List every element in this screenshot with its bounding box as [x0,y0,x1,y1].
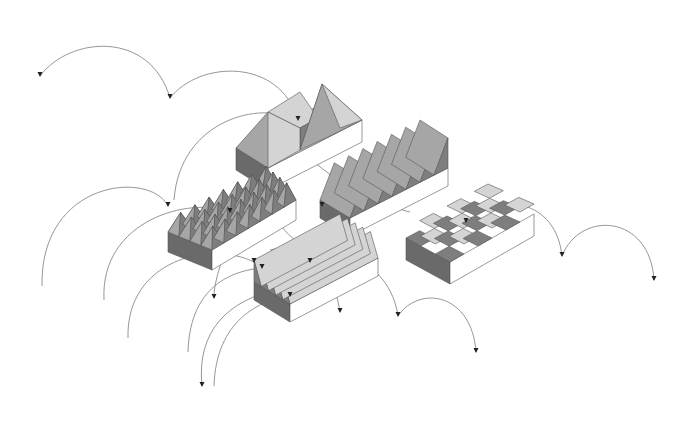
trajectory-arc [40,46,170,98]
roof-form-diagram [0,0,676,423]
arrowhead-icon [560,252,565,257]
pyramid-face [168,212,181,236]
arrowhead-icon [474,348,479,353]
arrowhead-icon [200,382,205,387]
wave-block [406,184,534,284]
arrowhead-icon [652,276,657,281]
diagram-svg [0,0,676,423]
block-side-left [406,238,450,284]
arrowhead-icon [338,308,343,313]
arrowhead-icon [166,202,171,207]
trajectory-arc [398,298,476,352]
roof-blocks [168,84,534,322]
arrowhead-icon [212,294,217,299]
wave-cell [474,184,503,198]
trajectory-arc [562,225,654,280]
arrowhead-icon [396,312,401,317]
trajectory-arc [42,187,168,286]
arrowhead-icon [38,72,43,77]
